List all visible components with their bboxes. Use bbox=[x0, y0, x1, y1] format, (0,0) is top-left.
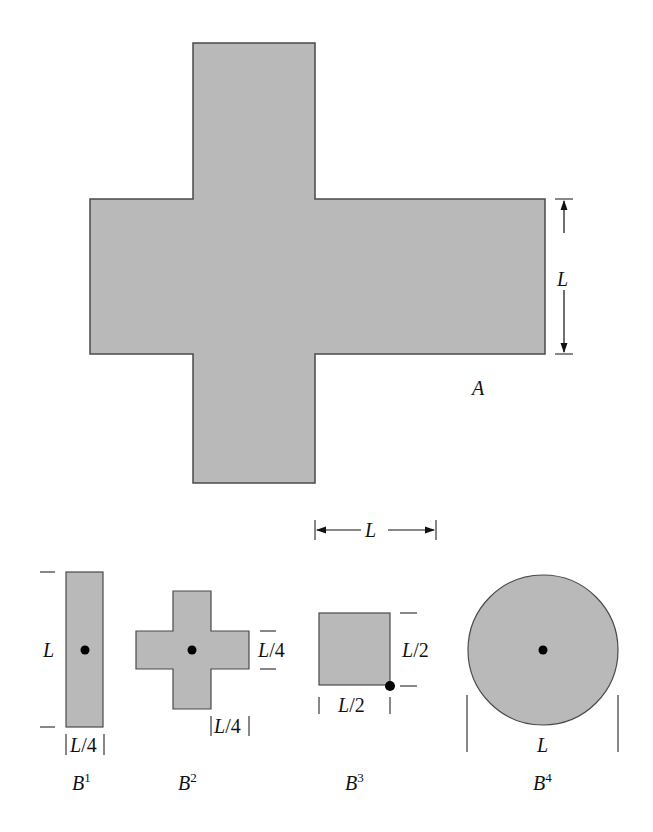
figure-b1: L L/4 B1 bbox=[40, 572, 104, 794]
reference-point-dot bbox=[539, 646, 548, 655]
dimension-label: L bbox=[364, 519, 376, 541]
width-label: L/4 bbox=[69, 734, 97, 756]
cross-shape-a bbox=[90, 43, 545, 483]
figure-a: L L A bbox=[90, 43, 573, 541]
height-label: L bbox=[42, 639, 54, 661]
reference-point-dot bbox=[188, 646, 197, 655]
figure-label-b1: B1 bbox=[72, 770, 91, 794]
dimension-horizontal-a: L bbox=[315, 519, 436, 541]
figure-b3: L/2 L/2 B3 bbox=[319, 613, 429, 794]
figure-label-b3: B3 bbox=[345, 770, 364, 794]
figure-b2: L/4 L/4 B2 bbox=[136, 591, 285, 794]
figure-label-b2: B2 bbox=[178, 770, 197, 794]
figure-b4: L B4 bbox=[467, 575, 618, 794]
width-label: L/2 bbox=[337, 694, 365, 716]
arm-width-label: L/4 bbox=[213, 715, 241, 737]
height-label: L/2 bbox=[401, 639, 429, 661]
square-shape-b3 bbox=[319, 613, 390, 685]
reference-point-dot bbox=[81, 646, 90, 655]
arm-height-label: L/4 bbox=[257, 639, 285, 661]
dimension-vertical-a: L bbox=[555, 199, 573, 354]
diameter-label: L bbox=[536, 734, 548, 756]
figure-label-a: A bbox=[470, 377, 485, 399]
figure-canvas: L L A L L/4 B1 L/4 L/4 B2 bbox=[0, 0, 653, 832]
reference-point-dot bbox=[385, 681, 395, 691]
figure-label-b4: B4 bbox=[533, 770, 552, 794]
dimension-label: L bbox=[556, 268, 568, 290]
